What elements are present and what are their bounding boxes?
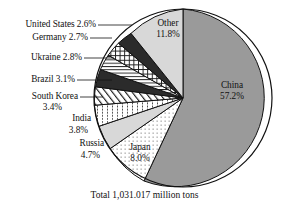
slice-label-other: Other 11.8% [140,18,196,39]
slice-label-japan: Japan 8.0% [115,142,165,163]
slice-label-japan-name: Japan [115,142,165,153]
slice-label-china: China 57.2% [204,80,260,101]
slice-label-other-pct: 11.8% [140,29,196,40]
total-caption: Total 1,031.017 million tons [0,190,289,200]
slice-label-china-name: China [204,80,260,91]
callout-label-south-korea: South Korea [0,91,78,101]
callout-label-united-states: United States 2.6% [0,19,96,29]
callout-label-india-value: 3.8% [0,125,88,135]
callout-label-russia-value: 4.7% [0,150,100,160]
slice-label-china-pct: 57.2% [204,91,260,102]
callout-label-germany: Germany 2.7% [0,32,88,42]
callout-label-brazil: Brazil 3.1% [0,74,75,84]
slice-label-other-name: Other [140,18,196,29]
callout-label-russia: Russia [0,138,104,148]
callout-label-south-korea-value: 3.4% [0,102,62,112]
callout-label-india: India [0,113,91,123]
pie-chart-figure: United States 2.6% Germany 2.7% Ukraine … [0,0,289,207]
slice-label-japan-pct: 8.0% [115,153,165,164]
callout-label-ukraine: Ukraine 2.8% [0,52,82,62]
